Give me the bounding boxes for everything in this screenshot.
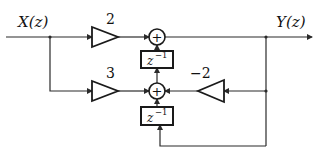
gain-bottom-triangle [92, 81, 118, 101]
gain-feedback-label: −2 [190, 65, 211, 81]
junction-dot [48, 35, 51, 38]
block-diagram: + + z −1 z −1 X(z) Y(z) 2 3 −2 [0, 0, 324, 159]
wire-feedback-loop [160, 125, 266, 146]
delay-bottom: z −1 [141, 107, 173, 125]
delay-bottom-exponent: −1 [155, 107, 168, 117]
gain-bottom-label: 3 [106, 65, 115, 81]
gain-feedback-triangle [198, 80, 224, 102]
input-label: X(z) [17, 13, 48, 31]
delay-top: z −1 [141, 50, 173, 68]
delay-top-base: z [146, 54, 154, 68]
junction-dot [264, 35, 267, 38]
adder-top: + [149, 29, 165, 45]
gain-top-triangle [92, 27, 118, 47]
output-label: Y(z) [276, 13, 306, 31]
adder-top-symbol: + [152, 30, 163, 45]
adder-bottom-symbol: + [152, 84, 163, 99]
gain-top-label: 2 [106, 11, 115, 27]
delay-bottom-base: z [146, 111, 154, 125]
delay-top-exponent: −1 [155, 50, 168, 60]
junction-dot [264, 89, 267, 92]
adder-bottom: + [149, 83, 165, 99]
wire-branch-gain3 [50, 37, 92, 91]
